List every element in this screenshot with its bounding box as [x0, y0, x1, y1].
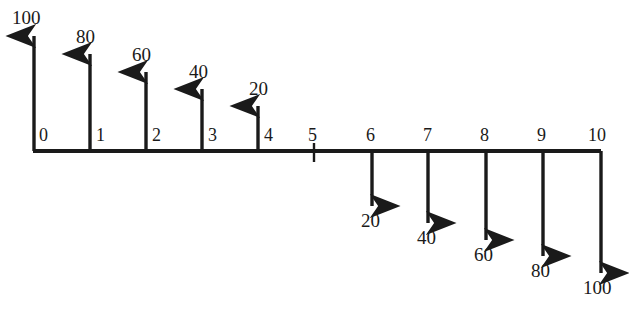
- arrow-down-80-label: 80: [531, 261, 550, 280]
- axis-label-7: 7: [423, 126, 432, 144]
- arrow-up-20-label: 20: [249, 79, 268, 98]
- arrow-down-20-label: 20: [361, 211, 380, 230]
- arrow-up-60-label: 60: [132, 45, 151, 64]
- axis-label-6: 6: [366, 126, 375, 144]
- axis-label-5: 5: [308, 126, 317, 144]
- axis-label-3: 3: [208, 126, 217, 144]
- axis-label-0: 0: [39, 126, 48, 144]
- arrow-down-100-label: 100: [583, 278, 612, 297]
- figure-canvas: 1008060402020406080100012345678910: [0, 0, 629, 317]
- axis-label-1: 1: [96, 126, 105, 144]
- arrow-up-100-label: 100: [12, 8, 41, 27]
- arrow-down-40-label: 40: [417, 228, 436, 247]
- arrow-down-60-label: 60: [474, 245, 493, 264]
- axis-label-4: 4: [264, 126, 273, 144]
- axis-label-8: 8: [480, 126, 489, 144]
- axis-label-2: 2: [152, 126, 161, 144]
- arrow-up-40-label: 40: [189, 62, 208, 81]
- axis-label-9: 9: [537, 126, 546, 144]
- axis-label-10: 10: [588, 126, 606, 144]
- arrow-up-80-label: 80: [76, 27, 95, 46]
